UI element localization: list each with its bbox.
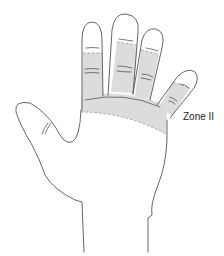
hand-diagram xyxy=(0,0,224,256)
hand-outline xyxy=(16,14,197,252)
zone-ii-shading xyxy=(81,42,190,134)
zone-label: Zone II xyxy=(183,111,214,122)
